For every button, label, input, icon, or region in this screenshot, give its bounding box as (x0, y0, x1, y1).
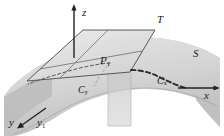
x-axis-label: x (204, 90, 209, 101)
point-p1-label-sub: 1 (107, 60, 110, 67)
curve-cx-label: Cx (157, 76, 167, 87)
y1-axis-label: y1 (37, 117, 45, 129)
diagram-svg (0, 0, 224, 136)
figure-canvas: z x y y1 T S P1 Cy Cx (0, 0, 224, 136)
curve-cy-label: Cy (78, 85, 88, 96)
y1-axis-label-sub: 1 (42, 122, 45, 129)
point-p1-label-base: P (100, 54, 107, 66)
curve-cx-label-base: C (157, 75, 164, 86)
surface-label: S (193, 48, 199, 59)
point-p1-label: P1 (100, 55, 110, 67)
curve-cy-label-base: C (78, 84, 85, 95)
y-axis-label: y (9, 117, 14, 128)
z-axis-arrowhead (71, 4, 76, 11)
curve-cy-label-sub: y (85, 88, 88, 95)
curve-cx-label-sub: x (164, 79, 167, 86)
z-axis-label: z (82, 7, 86, 18)
tangent-plane-label: T (157, 14, 163, 25)
